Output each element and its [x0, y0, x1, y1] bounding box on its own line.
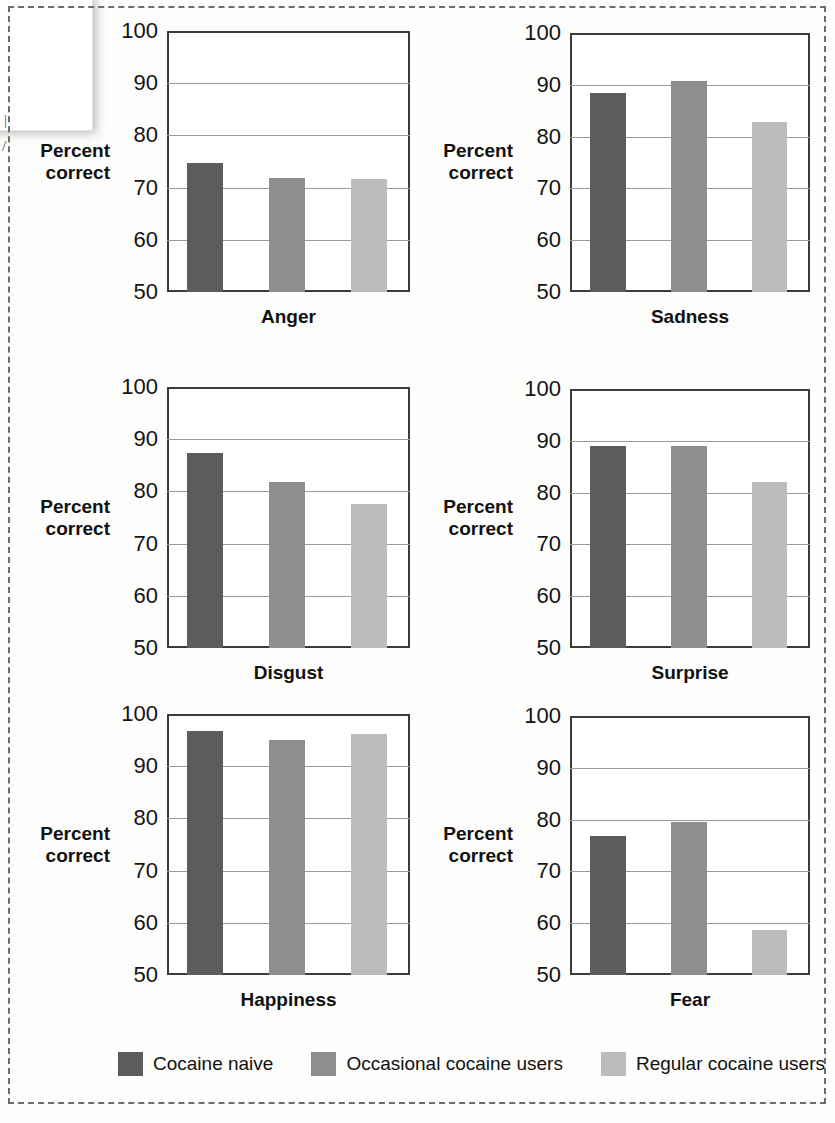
legend-item-0: Cocaine naive [118, 1052, 273, 1076]
category-label-fear: Fear [570, 989, 810, 1011]
y-axis-title: Percentcorrect [413, 823, 513, 868]
y-tick-70: 70 [537, 858, 561, 884]
gridline-80 [570, 820, 810, 821]
y-axis-title-line2: correct [413, 845, 513, 867]
bar-fear-series2 [752, 930, 788, 975]
legend-swatch-icon-1 [311, 1052, 336, 1076]
y-tick-50: 50 [537, 962, 561, 988]
y-tick-60: 60 [537, 910, 561, 936]
y-tick-100: 100 [524, 703, 561, 729]
edge-mark-1: | [4, 112, 7, 129]
y-tick-90: 90 [537, 755, 561, 781]
legend-label-2: Regular cocaine users [636, 1053, 825, 1075]
chart-legend: Cocaine naiveOccasional cocaine usersReg… [118, 1052, 818, 1076]
bar-fear-series0 [590, 836, 626, 975]
legend-item-2: Regular cocaine users [601, 1052, 825, 1076]
figure-root: Percentcorrect5060708090100AngerPercentc… [0, 0, 835, 1123]
plot-area: 5060708090100 [570, 716, 810, 975]
legend-swatch-icon-0 [118, 1052, 143, 1076]
panel-fear: Percentcorrect5060708090100Fear [0, 0, 835, 1123]
legend-swatch-icon-2 [601, 1052, 626, 1076]
legend-label-1: Occasional cocaine users [346, 1053, 563, 1075]
panel-grid: Percentcorrect5060708090100AngerPercentc… [0, 0, 835, 1123]
legend-item-1: Occasional cocaine users [311, 1052, 563, 1076]
legend-label-0: Cocaine naive [153, 1053, 273, 1075]
edge-mark-2: / [2, 138, 6, 155]
y-axis-title-line1: Percent [413, 823, 513, 845]
gridline-90 [570, 768, 810, 769]
page-corner-occluder [0, 0, 93, 131]
y-tick-80: 80 [537, 807, 561, 833]
bar-fear-series1 [671, 822, 707, 975]
